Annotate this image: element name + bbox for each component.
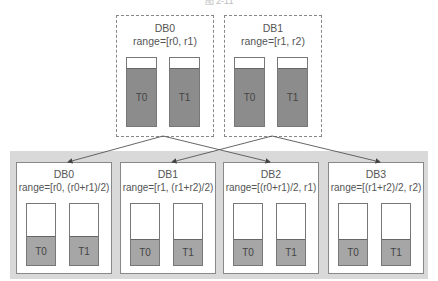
split-arrows (0, 0, 438, 281)
